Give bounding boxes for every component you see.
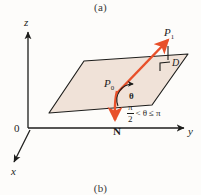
fraction-denominator: 2 (127, 115, 134, 124)
inequality-less-equal: ≤ (149, 109, 154, 118)
axis-label-z: z (24, 17, 28, 28)
inequality-upper-bound: π (156, 109, 161, 118)
plane-parallelogram (49, 54, 188, 113)
inequality-variable: θ (143, 109, 147, 118)
normal-vector-label: N (113, 126, 121, 137)
origin-label: 0 (14, 123, 20, 134)
fraction-numerator: π (127, 103, 134, 112)
axis-label-x: x (11, 166, 16, 177)
caption-b: (b) (0, 182, 201, 194)
point-label-p1-base: P (164, 26, 171, 38)
figure-container: (a) z y (0, 0, 201, 195)
point-label-p0-sub: 0 (111, 84, 114, 91)
inequality-less-than: < (136, 109, 141, 118)
theta-label: θ (129, 92, 134, 101)
x-axis (14, 130, 30, 162)
point-label-p0-base: P (104, 77, 111, 89)
plane-label: D (172, 58, 179, 68)
point-label-p1-sub: 1 (171, 33, 174, 40)
angle-inequality: π 2 < θ ≤ π (127, 103, 160, 124)
pi-over-two-fraction: π 2 (127, 103, 134, 124)
axis-label-y: y (188, 126, 193, 137)
point-label-p0: P0 (104, 78, 114, 92)
point-label-p1: P1 (164, 27, 174, 41)
